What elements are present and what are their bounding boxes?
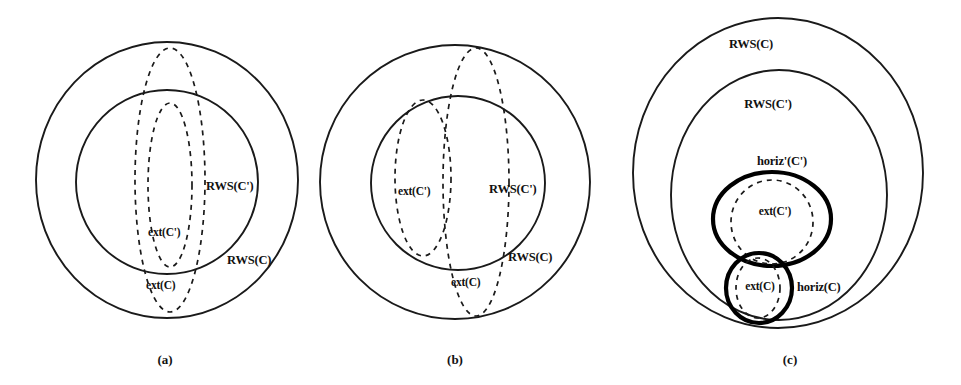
panel-b-label-rws-cprime: RWS(C') bbox=[489, 182, 537, 196]
panel-c-label-ext-c: ext(C) bbox=[745, 280, 775, 293]
panel-a-label-rws-c: RWS(C) bbox=[227, 253, 271, 267]
panel-a-graphic: RWS(C') ext(C') RWS(C) ext(C) ext(C') RW… bbox=[0, 0, 961, 385]
panel-c-label-rws-c: RWS(C) bbox=[729, 37, 773, 51]
panel-c-label-ext-cprime: ext(C') bbox=[759, 205, 792, 218]
panel-a-label-rws-cprime: RWS(C') bbox=[206, 179, 254, 193]
panel-c-label-horiz-cprime: horiz'(C') bbox=[757, 154, 807, 168]
figure-root: RWS(C') ext(C') RWS(C) ext(C) ext(C') RW… bbox=[0, 0, 961, 385]
panel-b-label-ext-c: ext(C) bbox=[451, 276, 481, 289]
panel-c-ext-cprime-dashed-ellipse bbox=[731, 180, 813, 264]
panel-a-ext-c-dashed-ellipse bbox=[135, 48, 205, 312]
panel-b-caption: (b) bbox=[447, 352, 463, 367]
panel-c-label-rws-cprime: RWS(C') bbox=[744, 97, 792, 111]
panel-b-label-ext-cprime: ext(C') bbox=[398, 185, 431, 198]
panel-c-label-horiz-c: horiz(C) bbox=[797, 280, 841, 294]
panel-c-caption: (c) bbox=[783, 352, 797, 367]
panel-a-caption: (a) bbox=[157, 352, 172, 367]
panel-a-label-ext-cprime: ext(C') bbox=[148, 226, 181, 239]
panel-a-ext-cprime-dashed-ellipse bbox=[148, 103, 192, 267]
panel-b-label-rws-c: RWS(C) bbox=[508, 250, 552, 264]
panel-a-label-ext-c: ext(C) bbox=[146, 279, 176, 292]
